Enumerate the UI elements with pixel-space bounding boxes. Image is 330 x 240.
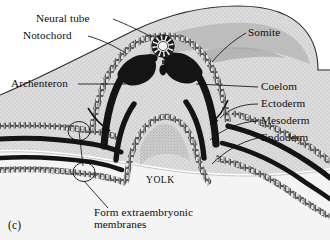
label-coelom: Coelom: [261, 80, 297, 92]
label-extraembryonic-line1: Form extraembryonic: [94, 206, 193, 218]
label-yolk: Yolk: [146, 174, 175, 186]
figure-panel: Neural tube Notochord Somite Archenteron…: [0, 0, 330, 240]
label-notochord: Notochord: [23, 29, 72, 41]
label-archenteron: Archenteron: [11, 77, 68, 89]
label-extraembryonic-line2: membranes: [94, 218, 146, 230]
label-endoderm: Endoderm: [261, 131, 308, 143]
label-neural-tube: Neural tube: [36, 12, 90, 24]
label-ectoderm: Ectoderm: [261, 97, 305, 109]
label-somite: Somite: [248, 26, 280, 38]
panel-identifier: (c): [8, 219, 21, 231]
neural-tube: [152, 35, 174, 57]
label-mesoderm: Mesoderm: [261, 114, 310, 126]
